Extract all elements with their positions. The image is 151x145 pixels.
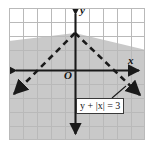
x-axis-label: x — [128, 55, 134, 66]
origin-label: O — [64, 70, 72, 81]
equation-callout: y + |x| = 3 — [76, 98, 124, 114]
equation-text: y + |x| = 3 — [80, 100, 120, 111]
graph-figure: y x O y + |x| = 3 — [0, 0, 151, 145]
coordinate-plane — [0, 0, 151, 145]
y-axis-label: y — [80, 5, 85, 16]
